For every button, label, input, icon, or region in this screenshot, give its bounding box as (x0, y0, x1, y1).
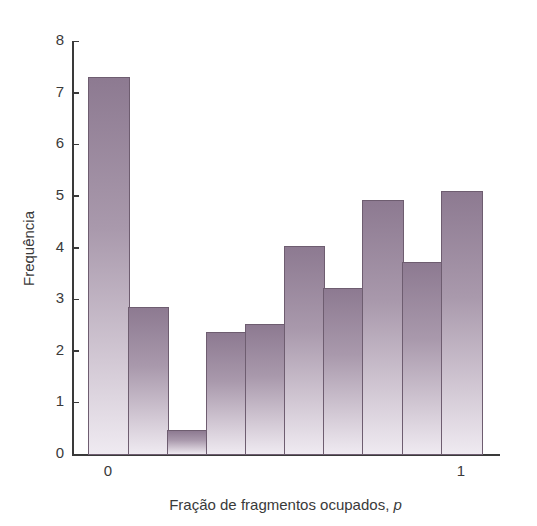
histogram-bar (245, 324, 286, 455)
y-tick-mark (72, 247, 79, 249)
histogram-bar (323, 288, 364, 455)
y-tick-label: 8 (44, 32, 64, 48)
x-axis-label-variable: p (393, 496, 401, 513)
histogram-bar (362, 200, 404, 455)
y-tick-label: 7 (44, 84, 64, 100)
x-tick-label: 0 (98, 462, 118, 479)
x-axis-label-text: Fração de fragmentos ocupados, (169, 496, 393, 513)
histogram-bar (284, 246, 325, 455)
y-tick-mark (72, 454, 79, 456)
y-tick-mark (72, 195, 79, 197)
histogram-bar (402, 262, 443, 455)
y-tick-mark (72, 299, 79, 301)
histogram-bar (206, 332, 247, 455)
y-tick-label: 5 (44, 187, 64, 203)
y-tick-label: 2 (44, 342, 64, 358)
y-tick-mark (72, 350, 79, 352)
histogram-bar (128, 307, 169, 455)
y-tick-mark (72, 41, 79, 43)
histogram-bar (441, 191, 483, 455)
histogram-bar (167, 430, 208, 455)
y-tick-label: 0 (44, 445, 64, 461)
y-axis-label: Frequência (20, 209, 37, 289)
y-tick-label: 3 (44, 290, 64, 306)
y-tick-mark (72, 402, 79, 404)
y-tick-label: 4 (44, 239, 64, 255)
y-tick-mark (72, 144, 79, 146)
y-tick-label: 1 (44, 393, 64, 409)
x-tick-label: 1 (451, 462, 471, 479)
x-axis-label: Fração de fragmentos ocupados, p (0, 496, 537, 513)
histogram-chart: 012345678 01 Frequência Fração de fragme… (0, 0, 537, 526)
y-tick-mark (72, 92, 79, 94)
histogram-bar (88, 77, 130, 455)
y-tick-label: 6 (44, 135, 64, 151)
